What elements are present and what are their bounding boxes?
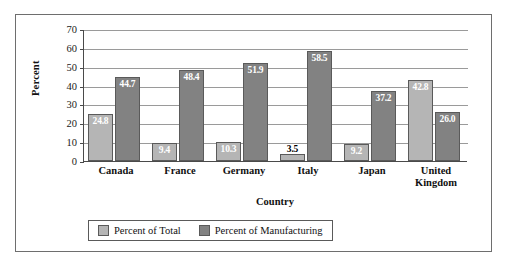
legend-swatch: [98, 225, 109, 236]
bar[interactable]: 42.8: [408, 80, 433, 161]
bar-group: 3.558.5Italy: [276, 29, 340, 161]
bar-group: 9.237.2Japan: [340, 29, 404, 161]
y-tick-label: 70: [67, 25, 78, 36]
bar-value-label: 51.9: [244, 66, 267, 76]
x-tick-label: France: [148, 165, 212, 177]
legend-swatch: [199, 225, 210, 236]
legend-item[interactable]: Percent of Manufacturing: [199, 225, 323, 236]
bar[interactable]: 26.0: [435, 112, 460, 161]
y-tick-mark: [80, 162, 84, 163]
x-axis-title: Country: [83, 196, 467, 207]
bar[interactable]: 44.7: [115, 77, 140, 161]
bar[interactable]: 51.9: [243, 63, 268, 161]
bar-value-label: 58.5: [308, 54, 331, 64]
bar-value-label: 42.8: [409, 83, 432, 93]
y-tick-label: 60: [67, 44, 78, 55]
bar[interactable]: 48.4: [179, 70, 204, 161]
legend-label: Percent of Total: [114, 225, 181, 236]
y-axis-title: Percent: [30, 60, 41, 96]
bar-value-label: 10.3: [217, 145, 240, 155]
x-tick-label: Japan: [340, 165, 404, 177]
bar-value-label: 26.0: [436, 115, 459, 125]
bar-value-label: 48.4: [180, 73, 203, 83]
bar-group: 10.351.9Germany: [212, 29, 276, 161]
plot-area: 70605040302010024.844.7Canada9.448.4Fran…: [83, 30, 467, 162]
y-tick-label: 20: [67, 119, 78, 130]
bar-group: 42.826.0UnitedKingdom: [404, 29, 468, 161]
x-tick-label: Italy: [276, 165, 340, 177]
x-tick-label: UnitedKingdom: [404, 165, 468, 189]
bar[interactable]: 24.8: [88, 114, 113, 161]
bar[interactable]: 58.5: [307, 51, 332, 161]
y-tick-label: 50: [67, 62, 78, 73]
y-tick-label: 30: [67, 100, 78, 111]
bar-group: 24.844.7Canada: [84, 29, 148, 161]
legend-label: Percent of Manufacturing: [215, 225, 323, 236]
bar[interactable]: 10.3: [216, 142, 241, 161]
x-tick-label: Germany: [212, 165, 276, 177]
bar[interactable]: 9.2: [344, 144, 369, 161]
bar-value-label: 44.7: [116, 80, 139, 90]
legend-item[interactable]: Percent of Total: [98, 225, 181, 236]
bar-group: 9.448.4France: [148, 29, 212, 161]
bar-value-label: 24.8: [89, 117, 112, 127]
bar[interactable]: 3.5: [280, 154, 305, 161]
bar[interactable]: 9.4: [152, 143, 177, 161]
y-tick-label: 40: [67, 81, 78, 92]
y-tick-label: 10: [67, 138, 78, 149]
bar-value-label: 3.5: [281, 145, 304, 155]
bar-value-label: 9.2: [345, 147, 368, 157]
x-tick-label: Canada: [84, 165, 148, 177]
bar-value-label: 37.2: [372, 94, 395, 104]
y-tick-label: 0: [72, 157, 77, 168]
chart-figure: Percent 70605040302010024.844.7Canada9.4…: [0, 0, 507, 267]
bar-value-label: 9.4: [153, 146, 176, 156]
bar[interactable]: 37.2: [371, 91, 396, 161]
chart-legend: Percent of TotalPercent of Manufacturing: [88, 220, 333, 241]
